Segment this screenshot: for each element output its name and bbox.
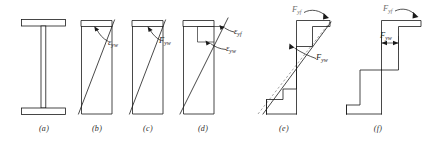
panel-d-top-flange [184,21,215,27]
figure-container: εyw Fyw εyf εyw Fyf Fyw Fyf Fyw (a) (b) … [0,0,446,147]
panel-f-arrowhead-yf [413,12,419,19]
panel-e-elastic-dashed-line [258,22,330,114]
caption-panel-d: (d) [189,124,217,133]
ibeam-top-flange [22,20,66,27]
ibeam-bottom-flange [22,108,66,115]
panel-d-leader-yf [225,28,235,32]
panel-b-top-flange [82,21,113,27]
label-F-yw-panel-c: Fyw [159,35,171,45]
panel-e-leader-yf [304,10,327,16]
panel-e-arrowhead-yw [289,44,295,50]
label-F-yf-panel-f: Fyf [383,3,392,13]
panel-d-arrowhead-yw [206,41,211,46]
caption-panel-f: (f) [364,124,392,133]
label-epsilon-yf-panel-d: εyf [234,26,242,36]
label-F-yw-panel-f: Fyw [380,30,392,40]
panel-b-arrowhead [94,26,99,31]
caption-panel-e: (e) [270,124,298,133]
panel-d-web-outline [184,27,215,115]
panel-c-top-flange [133,21,164,27]
label-epsilon-yw-panel-d: εyw [226,43,236,53]
ibeam-web [41,26,46,108]
panel-e-plastic-line [263,22,331,114]
panel-c-arrowhead [148,27,153,32]
panel-f-dimension-arrow-right [393,41,399,45]
panel-d-strain [180,18,235,114]
panel-e-stress-block [267,21,331,115]
label-epsilon-yw-panel-b: εyw [108,37,118,47]
panel-e-arrowhead-yf [323,13,329,20]
panel-d-strain-line [180,18,228,114]
label-F-yw-panel-e: Fyw [316,52,328,62]
caption-panel-b: (b) [83,124,111,133]
caption-panel-a: (a) [30,124,58,133]
panel-b-strain [79,20,115,114]
caption-panel-c: (c) [134,124,162,133]
label-F-yf-panel-e: Fyf [292,4,301,14]
panel-b-strain-line [79,20,115,114]
panel-a-ibeam [22,20,66,115]
panel-f-stress [347,9,422,114]
panel-f-dimension-arrow-left [382,41,388,45]
